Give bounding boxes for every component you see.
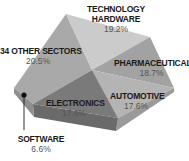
label-tech-line1: TECHNOLOGY <box>86 4 146 14</box>
label-other-sectors: 34 OTHER SECTORS 20.5% <box>0 46 76 66</box>
label-electronics: ELECTRONICS 17.4% <box>46 98 102 118</box>
label-pharma-name: PHARMACEUTICALS <box>114 58 189 68</box>
label-pharmaceuticals: PHARMACEUTICALS 18.7% <box>114 58 189 78</box>
value-other-sectors: 20.5% <box>0 56 76 66</box>
value-electronics: 17.4% <box>46 108 102 118</box>
value-technology-hardware: 19.2% <box>86 24 146 34</box>
label-software-name: SOFTWARE <box>16 134 66 144</box>
label-software: SOFTWARE 6.6% <box>16 134 66 154</box>
value-automotive: 17.6% <box>110 101 162 111</box>
software-marker-dot <box>21 92 26 97</box>
label-auto-name: AUTOMOTIVE <box>110 91 162 101</box>
label-elec-name: ELECTRONICS <box>46 98 102 108</box>
label-other-name: 34 OTHER SECTORS <box>0 46 76 56</box>
value-software: 6.6% <box>16 144 66 154</box>
label-technology-hardware: TECHNOLOGY HARDWARE 19.2% <box>86 4 146 34</box>
label-automotive: AUTOMOTIVE 17.6% <box>110 91 162 111</box>
value-pharmaceuticals: 18.7% <box>114 68 189 78</box>
label-tech-line2: HARDWARE <box>86 14 146 24</box>
